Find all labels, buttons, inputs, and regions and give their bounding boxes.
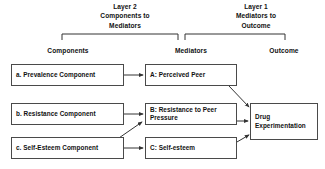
mediation-model-diagram: Layer 2 Components to Mediators Layer 1 … (0, 0, 325, 169)
node-component-self-esteem: c. Self-Esteem Component (11, 137, 124, 159)
layer-1-title: Layer 1 Mediators to Outcome (190, 2, 322, 30)
bracket-layer-1 (185, 34, 285, 40)
node-component-self-esteem-label: c. Self-Esteem Component (12, 144, 123, 152)
node-component-prevalence: a. Prevalence Component (11, 64, 124, 86)
node-mediator-resistance-peer-pressure-label: B: Resistance to Peer Pressure (146, 106, 236, 123)
column-header-mediators: Mediators (148, 47, 234, 54)
node-component-resistance-label: b. Resistance Component (12, 110, 123, 118)
node-outcome-drug-experimentation-label: Drug Experimentation (251, 113, 317, 130)
column-header-outcome: Outcome (248, 47, 320, 54)
node-outcome-drug-experimentation: Drug Experimentation (250, 103, 318, 140)
bracket-layer-2 (62, 34, 178, 40)
layer-2-title-line2: Components to (60, 11, 190, 20)
layer-2-title-line3: Mediators (60, 21, 190, 30)
node-mediator-perceived-peer-label: A: Perceived Peer (146, 71, 236, 79)
node-component-resistance: b. Resistance Component (11, 103, 124, 125)
layer-2-title: Layer 2 Components to Mediators (60, 2, 190, 30)
layer-1-title-line3: Outcome (190, 21, 322, 30)
column-header-components: Components (18, 47, 118, 54)
node-mediator-resistance-peer-pressure: B: Resistance to Peer Pressure (145, 103, 237, 125)
node-mediator-perceived-peer: A: Perceived Peer (145, 64, 237, 86)
layer-1-title-line1: Layer 1 (190, 2, 322, 11)
layer-2-title-line1: Layer 2 (60, 2, 190, 11)
node-component-prevalence-label: a. Prevalence Component (12, 71, 123, 79)
node-mediator-self-esteem-label: C: Self-esteem (146, 144, 236, 152)
node-mediator-self-esteem: C: Self-esteem (145, 137, 237, 159)
layer-1-title-line2: Mediators to (190, 11, 322, 20)
